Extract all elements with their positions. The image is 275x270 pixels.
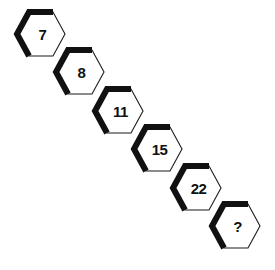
hexagon-value-label: ? (211, 203, 261, 249)
hexagon-sequence-puzzle: 78111522? (0, 0, 275, 270)
hexagon-answer: ? (211, 203, 261, 249)
